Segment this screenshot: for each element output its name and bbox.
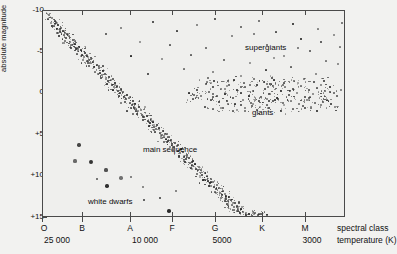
data-point <box>224 200 226 202</box>
data-point <box>86 65 88 67</box>
data-point <box>98 65 100 67</box>
data-point <box>301 108 303 110</box>
data-point <box>114 80 115 81</box>
data-point <box>258 20 260 22</box>
data-point <box>204 106 206 108</box>
data-point <box>199 172 200 173</box>
data-point <box>266 83 268 85</box>
x-temp-label-10000: 10 000 <box>132 236 158 245</box>
data-point <box>229 193 230 194</box>
data-point <box>130 96 131 97</box>
data-point <box>190 54 191 55</box>
data-point <box>234 105 236 107</box>
data-point <box>279 81 281 83</box>
region-label-white-dwarfs: white dwarfs <box>88 198 132 206</box>
data-point <box>207 108 208 109</box>
data-point <box>108 82 110 84</box>
data-point <box>274 112 275 113</box>
data-point <box>240 26 241 27</box>
data-point <box>186 156 187 157</box>
data-point <box>151 131 152 132</box>
data-point <box>226 82 227 83</box>
data-point <box>248 111 249 112</box>
data-point <box>220 199 221 200</box>
data-point <box>282 88 283 89</box>
data-point <box>234 209 235 210</box>
data-point <box>232 202 234 204</box>
data-point <box>142 186 144 188</box>
data-point <box>224 207 225 208</box>
data-point <box>217 192 218 193</box>
data-point <box>151 120 153 122</box>
data-point <box>98 67 99 68</box>
data-point <box>107 68 108 69</box>
data-point <box>209 80 211 82</box>
data-point <box>62 25 63 26</box>
data-point <box>120 90 121 91</box>
data-point <box>126 103 127 104</box>
data-point <box>220 107 222 109</box>
data-point <box>168 136 169 137</box>
data-point <box>176 30 177 31</box>
data-point <box>82 48 83 49</box>
data-point <box>171 141 173 143</box>
data-point <box>211 191 212 192</box>
data-point <box>297 47 299 49</box>
data-point <box>146 123 147 124</box>
data-point <box>321 90 323 92</box>
data-point <box>191 161 192 162</box>
data-point <box>196 24 197 25</box>
data-point <box>218 111 219 112</box>
data-point <box>268 100 270 102</box>
x-tick-mark <box>42 217 43 222</box>
data-point <box>192 158 193 159</box>
data-point <box>186 102 187 103</box>
data-point <box>270 93 271 94</box>
data-point <box>266 104 267 105</box>
data-point <box>207 98 208 99</box>
data-point <box>299 111 300 112</box>
data-point <box>54 23 56 25</box>
data-point <box>194 163 195 164</box>
x-class-label-b: B <box>79 224 85 233</box>
data-point <box>237 94 239 96</box>
data-point <box>248 213 249 214</box>
data-point <box>267 86 269 88</box>
data-point <box>119 83 120 84</box>
data-point <box>229 90 230 91</box>
data-point <box>137 114 138 115</box>
data-point <box>183 68 184 69</box>
data-point <box>221 185 222 186</box>
data-point <box>202 91 203 92</box>
data-point <box>320 96 322 98</box>
data-point <box>191 168 193 170</box>
data-point <box>312 93 314 95</box>
data-point <box>216 104 217 105</box>
data-point <box>61 33 63 35</box>
data-point <box>336 95 337 96</box>
data-point <box>226 93 227 94</box>
data-point <box>152 127 153 128</box>
data-point <box>196 89 198 91</box>
data-point <box>104 168 107 171</box>
data-point <box>333 92 334 93</box>
x-tick-mark <box>172 217 173 222</box>
data-point <box>320 84 322 86</box>
data-point <box>87 62 89 64</box>
data-point <box>304 96 306 98</box>
data-point <box>335 110 337 112</box>
data-point <box>126 94 127 95</box>
data-point <box>326 97 327 98</box>
data-point <box>91 63 92 64</box>
data-point <box>158 123 159 124</box>
data-point <box>215 96 216 97</box>
data-point <box>196 173 197 174</box>
data-point <box>222 98 223 99</box>
data-point <box>264 216 265 217</box>
data-point <box>273 57 275 59</box>
data-point <box>222 201 223 202</box>
data-point <box>249 62 251 64</box>
data-point <box>204 177 205 178</box>
data-point <box>144 112 145 113</box>
data-point <box>200 173 201 174</box>
